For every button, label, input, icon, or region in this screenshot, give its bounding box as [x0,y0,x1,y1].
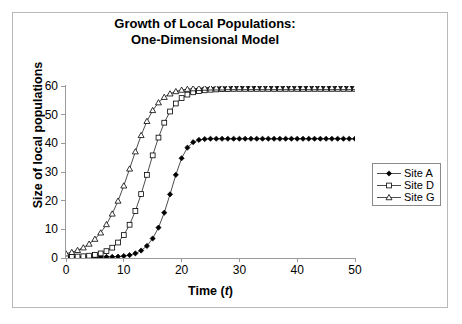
data-point [127,166,133,171]
data-point [196,137,201,142]
data-point [121,233,126,238]
legend-label: Site A [402,168,433,179]
data-point [167,91,173,96]
legend-marker-open-triangle-icon [376,192,402,203]
data-point [347,136,352,141]
data-point [277,136,282,141]
data-point [173,101,178,106]
data-point [213,86,219,90]
legend-item-site-d[interactable]: Site D [373,179,440,191]
series-line [66,89,355,257]
data-point [127,253,132,258]
x-tick-label-40: 40 [277,264,317,276]
x-tick-20 [181,258,182,262]
series-canvas [66,86,355,258]
data-point [231,136,236,141]
data-point [162,120,167,125]
data-point [150,107,156,112]
x-tick-10 [123,258,124,262]
data-point [110,245,115,250]
data-point [271,136,276,141]
y-tick-20 [61,200,65,201]
data-point [312,136,317,141]
legend-label: Site D [402,180,434,191]
data-point [162,210,167,215]
data-point [283,136,288,141]
x-axis-line [65,258,356,259]
y-tick-60 [61,86,65,87]
series-site-d [66,86,355,258]
data-point [75,254,80,258]
x-tick-label-0: 0 [46,264,86,276]
y-tick-30 [61,172,65,173]
data-point [289,136,294,141]
data-point [150,153,155,158]
x-tick-30 [239,258,240,262]
chart-legend: Site ASite DSite G [372,163,441,206]
data-point [335,136,340,141]
y-tick-label-10: 10 [14,223,58,235]
y-tick-0 [61,258,65,259]
data-point [121,183,127,188]
data-point [121,253,126,258]
data-point [87,253,92,258]
data-point [109,211,115,216]
data-point [104,254,109,258]
data-point [243,136,248,141]
legend-marker-filled-diamond-icon [376,168,402,179]
legend-label: Site G [402,192,435,203]
data-point [300,136,305,141]
x-tick-50 [355,258,356,262]
data-point [133,209,138,214]
data-point [69,254,74,258]
data-point [185,92,190,97]
data-point [144,118,150,123]
data-point [179,96,184,101]
data-point [352,136,355,141]
plot-area [66,86,355,258]
data-point [266,136,271,141]
series-site-g [66,86,355,256]
data-point [80,245,86,250]
x-axis-title-suffix: ) [229,284,233,298]
data-point [161,94,167,99]
data-point [260,136,265,141]
data-point [110,254,115,258]
legend-item-site-g[interactable]: Site G [373,191,440,203]
data-point [93,252,98,257]
data-point [341,136,346,141]
data-point [254,136,259,141]
x-tick-40 [297,258,298,262]
y-tick-40 [61,143,65,144]
data-point [168,109,173,114]
data-point [139,192,144,197]
data-point [75,247,81,252]
y-tick-50 [61,114,65,115]
data-point [329,136,334,141]
data-point [196,86,202,91]
data-point [138,132,144,137]
legend-item-site-a[interactable]: Site A [373,167,440,179]
series-line [66,87,355,253]
data-point [127,222,132,227]
data-point [98,251,103,256]
legend-marker-open-square-icon [376,180,402,191]
chart-figure: Growth of Local Populations: One-Dimensi… [0,0,462,324]
data-point [208,86,214,90]
data-point [115,254,120,258]
data-point [237,136,242,141]
x-tick-0 [66,258,67,262]
y-tick-label-0: 0 [14,252,58,264]
series-site-a [66,136,355,258]
data-point [132,149,138,154]
x-tick-label-20: 20 [162,264,202,276]
x-axis-title-prefix: Time ( [188,284,225,298]
chart-title-line-2: One-Dimensional Model [40,32,370,48]
chart-title-line-1: Growth of Local Populations: [40,16,370,32]
data-point [202,136,207,141]
data-point [104,249,109,254]
data-point [225,136,230,141]
data-point [306,136,311,141]
data-point [248,136,253,141]
x-axis-title: Time (t) [66,284,355,298]
